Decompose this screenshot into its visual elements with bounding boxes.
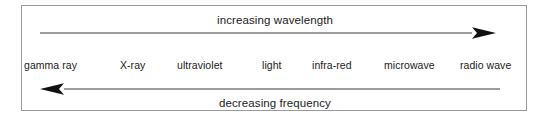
band-label-microwave: microwave: [384, 58, 435, 72]
electromagnetic-spectrum-diagram: increasing wavelength gamma ray X-ray ul…: [0, 0, 548, 120]
band-label-x-ray: X-ray: [120, 58, 145, 72]
decreasing-frequency-label: decreasing frequency: [22, 96, 528, 110]
band-label-radio-wave: radio wave: [460, 58, 511, 72]
band-label-light: light: [262, 58, 282, 72]
increasing-wavelength-arrow-icon: [40, 25, 496, 41]
spectrum-band-label-list: gamma ray X-ray ultraviolet light infra-…: [22, 58, 528, 74]
band-label-ultraviolet: ultraviolet: [177, 58, 223, 72]
band-label-gamma-ray: gamma ray: [24, 58, 77, 72]
diagram-panel: increasing wavelength gamma ray X-ray ul…: [21, 5, 527, 111]
band-label-infra-red: infra-red: [312, 58, 352, 72]
decreasing-frequency-arrow-icon: [40, 81, 500, 97]
